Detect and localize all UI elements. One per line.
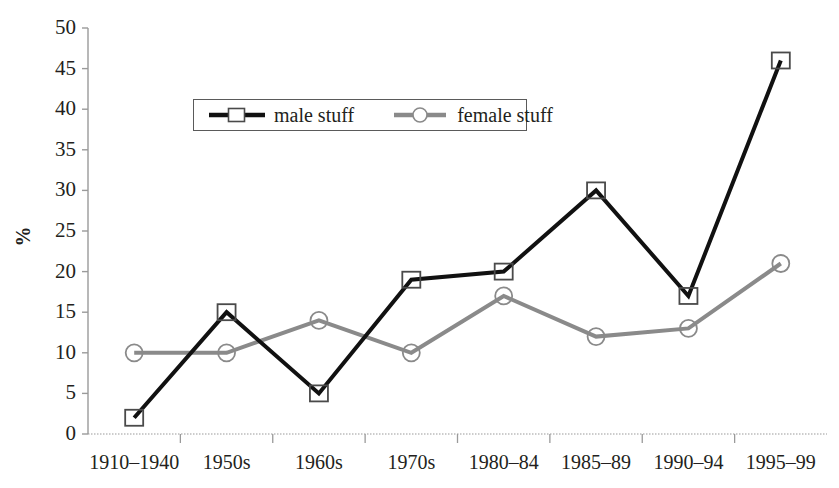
data-point-marker [772,52,790,68]
line-chart-canvas [0,0,839,488]
legend-label-male: male stuff [274,104,354,127]
chart-legend: male stuff female stuff [193,99,527,131]
legend-marker-circle-icon [390,103,450,127]
legend-entry-male: male stuff [207,100,354,130]
legend-entry-female: female stuff [390,100,553,130]
data-point-marker [772,255,789,272]
legend-marker-square-icon [207,103,267,127]
chart-figure: % 05101520253035404550 1910–19401950s196… [0,0,839,488]
legend-label-female: female stuff [457,104,553,127]
